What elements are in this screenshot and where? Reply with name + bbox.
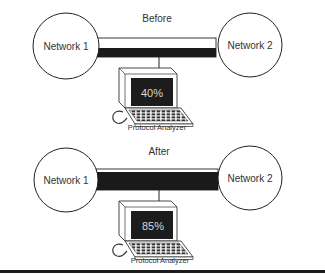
after-title: After xyxy=(148,146,170,157)
before-traffic-band xyxy=(96,48,216,57)
before-panel: Before Network 1 Network 2 40% Protocol … xyxy=(33,13,282,132)
after-traffic-band xyxy=(96,172,218,190)
before-title: Before xyxy=(142,13,172,24)
after-utilization-value: 85% xyxy=(142,220,164,232)
after-link xyxy=(96,169,218,190)
before-utilization-value: 40% xyxy=(141,87,163,99)
before-network-2-label: Network 2 xyxy=(227,40,272,51)
before-analyzer-label: Protocol Analyzer xyxy=(128,123,187,132)
bottom-rule xyxy=(0,270,325,273)
after-network-1-label: Network 1 xyxy=(43,175,88,186)
after-analyzer-label: Protocol Analyzer xyxy=(131,256,190,265)
after-panel: After Network 1 Network 2 85% Protocol A… xyxy=(34,146,282,265)
before-link xyxy=(96,38,216,57)
before-network-1-label: Network 1 xyxy=(43,41,88,52)
network-utilization-diagram: Before Network 1 Network 2 40% Protocol … xyxy=(0,0,325,280)
after-network-2-label: Network 2 xyxy=(227,173,272,184)
